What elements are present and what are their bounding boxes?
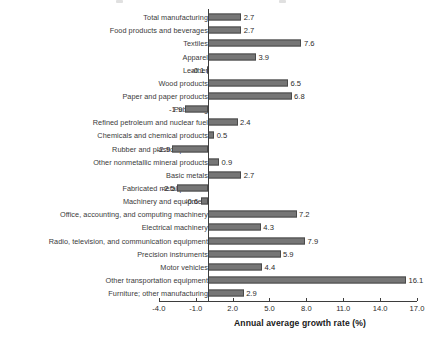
bar-row: Basic metals2.7: [0, 168, 435, 181]
horizontal-bar-chart: Total manufacturing2.7Food products and …: [0, 0, 435, 352]
value-label: 6.8: [294, 91, 305, 100]
x-axis-tick: [159, 298, 160, 301]
category-label: Total manufacturing: [143, 13, 208, 22]
bar-row: Leather-0.1: [0, 63, 435, 76]
bar: [208, 40, 301, 47]
bar: [208, 92, 292, 99]
category-label: Food products and beverages: [110, 26, 208, 35]
bar-row: Motor vehicles4.4: [0, 260, 435, 273]
value-label: 0.5: [217, 131, 228, 140]
value-label: 2.4: [240, 118, 251, 127]
value-label: 2.7: [244, 170, 255, 179]
bar-row: Furniture; other manufacturing2.9: [0, 287, 435, 300]
bar-row: Refined petroleum and nuclear fuel2.4: [0, 116, 435, 129]
value-label: 0.9: [222, 157, 233, 166]
x-axis-tick: [269, 298, 270, 301]
x-axis-tick: [306, 298, 307, 301]
category-label: Motor vehicles: [160, 262, 208, 271]
bar: [185, 106, 208, 113]
value-label: 7.9: [308, 236, 319, 245]
value-label: 2.9: [246, 289, 257, 298]
bar-row: Chemicals and chemical products0.5: [0, 129, 435, 142]
value-label: -2.9: [157, 144, 170, 153]
value-label: 4.4: [265, 262, 276, 271]
bar: [208, 277, 406, 284]
bar-row: Office, accounting, and computing machin…: [0, 208, 435, 221]
bar: [208, 290, 244, 297]
bar-row: Fabricated metal products-2.5: [0, 181, 435, 194]
bar-row: Other transportation equipment16.1: [0, 274, 435, 287]
x-axis-line: [159, 301, 417, 302]
bar: [208, 224, 261, 231]
bar: [208, 158, 219, 165]
bar: [208, 79, 288, 86]
x-axis-tick: [417, 298, 418, 301]
category-label: Office, accounting, and computing machin…: [60, 210, 208, 219]
category-label: Precision instruments: [137, 249, 208, 258]
value-label: -2.5: [162, 184, 175, 193]
x-axis-tick-label: 14.0: [373, 304, 388, 313]
bar: [208, 14, 241, 21]
category-label: Basic metals: [166, 170, 208, 179]
category-label: Refined petroleum and nuclear fuel: [93, 118, 208, 127]
value-label: 16.1: [408, 276, 423, 285]
zero-axis-line: [208, 9, 209, 301]
x-axis-tick-label: 5.0: [264, 304, 275, 313]
bar: [208, 250, 281, 257]
bar-row: Textiles7.6: [0, 37, 435, 50]
x-axis-tick: [343, 298, 344, 301]
bar: [208, 237, 305, 244]
category-label: Other nonmetallic mineral products: [93, 157, 208, 166]
bar-row: Total manufacturing2.7: [0, 11, 435, 24]
category-label: Chemicals and chemical products: [97, 131, 208, 140]
bar-row: Electrical machinery4.3: [0, 221, 435, 234]
bar-row: Rubber and plastics products-2.9: [0, 142, 435, 155]
bar-row: Radio, television, and communication equ…: [0, 234, 435, 247]
value-label: 7.6: [304, 39, 315, 48]
value-label: 2.7: [244, 13, 255, 22]
x-axis-tick-label: 11.0: [336, 304, 350, 313]
value-label: 3.9: [258, 52, 269, 61]
x-axis-tick: [380, 298, 381, 301]
value-label: 4.3: [263, 223, 274, 232]
bar-row: Apparel3.9: [0, 50, 435, 63]
value-label: -1.9: [169, 105, 182, 114]
x-axis-tick-label: -4.0: [152, 304, 165, 313]
category-label: Textiles: [183, 39, 208, 48]
value-label: 7.2: [299, 210, 310, 219]
x-axis-tick: [233, 298, 234, 301]
bar: [208, 263, 262, 270]
bar: [208, 27, 241, 34]
x-axis-tick: [196, 298, 197, 301]
bar: [172, 145, 208, 152]
bar: [208, 171, 241, 178]
bar: [208, 119, 238, 126]
bar-row: Machinery and equipment-0.6: [0, 195, 435, 208]
value-label: 5.9: [283, 249, 294, 258]
value-label: -0.6: [185, 197, 198, 206]
bar-row: Precision instruments5.9: [0, 247, 435, 260]
bar: [201, 198, 208, 205]
x-axis-tick-label: 2.0: [227, 304, 238, 313]
bar-row: Publishing-1.9: [0, 103, 435, 116]
value-label: 2.7: [244, 26, 255, 35]
category-label: Other transportation equipment: [106, 276, 209, 285]
category-label: Radio, television, and communication equ…: [49, 236, 208, 245]
x-axis-tick-label: -1.0: [189, 304, 202, 313]
x-axis-tick-label: 17.0: [410, 304, 425, 313]
bar: [177, 185, 208, 192]
bar-row: Wood products6.5: [0, 76, 435, 89]
value-label: -0.1: [191, 65, 204, 74]
plot-area: Total manufacturing2.7Food products and …: [0, 0, 435, 352]
category-label: Electrical machinery: [142, 223, 208, 232]
category-label: Wood products: [158, 78, 208, 87]
bar: [208, 53, 256, 60]
x-axis-tick-label: 8.0: [301, 304, 312, 313]
category-label: Furniture; other manufacturing: [108, 289, 208, 298]
bar-row: Other nonmetallic mineral products0.9: [0, 155, 435, 168]
bar-row: Food products and beverages2.7: [0, 24, 435, 37]
bar: [208, 211, 297, 218]
category-label: Apparel: [182, 52, 208, 61]
value-label: 6.5: [290, 78, 301, 87]
bar-row: Paper and paper products6.8: [0, 89, 435, 102]
